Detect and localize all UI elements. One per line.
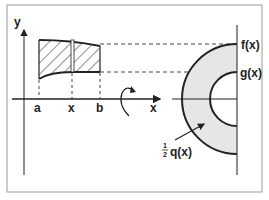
slice-strip: [71, 40, 74, 72]
label-f: f(x): [241, 38, 260, 52]
label-b: b: [96, 101, 103, 115]
diagram-canvas: y x a x b: [0, 0, 269, 200]
y-axis-label: y: [14, 15, 21, 29]
half-q-label: 1 2 q(x): [162, 142, 192, 159]
x-axis-label: x: [150, 101, 157, 115]
half-denominator: 2: [163, 151, 167, 158]
label-a: a: [34, 101, 41, 115]
label-g: g(x): [240, 66, 262, 80]
q-label: q(x): [170, 145, 192, 159]
washer-diagram: y x a x b: [0, 0, 269, 200]
label-x: x: [68, 101, 75, 115]
half-numerator: 1: [163, 142, 167, 149]
